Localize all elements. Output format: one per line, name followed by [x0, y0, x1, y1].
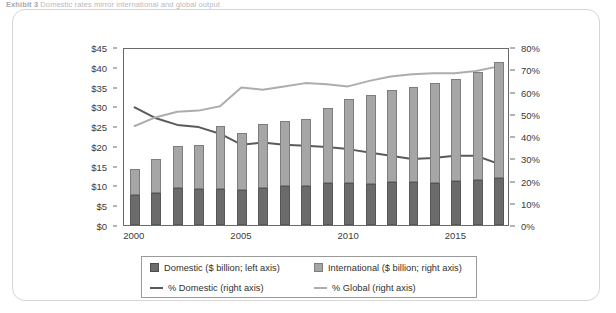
bar-column: [151, 159, 161, 225]
bar-column: [258, 124, 268, 225]
y-axis-right: 0%10%20%30%40%50%60%70%80%: [509, 48, 616, 226]
y-axis-right-tick-label: 40%: [521, 132, 540, 143]
y-axis-right-tick: [510, 114, 515, 115]
y-axis-right-tick: [510, 48, 515, 49]
bar-column: [387, 90, 397, 225]
legend-item-pct-domestic: % Domestic (right axis): [150, 278, 264, 297]
exhibit-caption-prefix: Exhibit 3: [6, 0, 38, 9]
bar-segment-international: [387, 90, 397, 183]
y-axis-left-tick: [113, 48, 117, 49]
legend-line-pct-domestic-icon: [150, 287, 163, 289]
legend-label-domestic: Domestic ($ billion; left axis): [164, 263, 280, 273]
legend-row-bars: Domestic ($ billion; left axis) Internat…: [142, 258, 476, 277]
y-axis-left-tick: [113, 67, 117, 68]
bar-segment-international: [194, 145, 204, 189]
legend-label-pct-domestic: % Domestic (right axis): [168, 283, 264, 293]
bar-column: [409, 87, 419, 225]
y-axis-right-tick-label: 30%: [521, 154, 540, 165]
bar-column: [237, 133, 247, 225]
bar-column: [366, 95, 376, 225]
bar-segment-international: [473, 72, 483, 180]
legend-swatch-domestic-icon: [150, 263, 159, 272]
bar-segment-domestic: [173, 188, 183, 225]
legend-swatch-international-icon: [314, 263, 323, 272]
chart-panel: $0$5$10$15$20$25$30$35$40$45 0%10%20%30%…: [12, 9, 600, 301]
exhibit-caption: Exhibit 3 Domestic rates mirror internat…: [6, 0, 346, 9]
y-axis-right-tick: [510, 70, 515, 71]
y-axis-right-tick: [510, 226, 515, 227]
y-axis-left-tick-label: $10: [91, 181, 107, 192]
bar-segment-international: [280, 121, 290, 187]
y-axis-left-tick: [113, 146, 117, 147]
bar-segment-international: [173, 146, 183, 188]
bar-column: [473, 72, 483, 225]
bar-segment-international: [301, 119, 311, 187]
y-axis-left-tick: [113, 226, 117, 227]
bar-segment-international: [366, 95, 376, 184]
x-axis: 2000200520102015: [123, 228, 509, 248]
bar-segment-international: [323, 108, 333, 184]
x-axis-tick-label: 2015: [445, 230, 466, 241]
bar-segment-domestic: [237, 190, 247, 225]
y-axis-left-tick-label: $30: [91, 102, 107, 113]
bar-segment-domestic: [194, 189, 204, 225]
bar-segment-domestic: [409, 182, 419, 225]
line-pct-domestic: [135, 107, 498, 163]
bar-segment-domestic: [366, 184, 376, 225]
bar-segment-international: [451, 79, 461, 181]
exhibit-caption-text: Domestic rates mirror international and …: [40, 0, 220, 9]
bar-segment-international: [237, 133, 247, 190]
legend-item-pct-global: % Global (right axis): [314, 278, 416, 297]
bar-column: [430, 83, 440, 225]
chart-screenshot: Exhibit 3 Domestic rates mirror internat…: [0, 0, 616, 313]
y-axis-left-tick: [113, 186, 117, 187]
y-axis-left-tick-label: $20: [91, 141, 107, 152]
bar-segment-domestic: [344, 183, 354, 225]
y-axis-left-tick-label: $35: [91, 82, 107, 93]
bar-column: [301, 119, 311, 225]
y-axis-left: $0$5$10$15$20$25$30$35$40$45: [13, 48, 117, 226]
y-axis-left-tick: [113, 127, 117, 128]
bar-segment-domestic: [151, 193, 161, 225]
legend-line-pct-global-icon: [314, 287, 327, 289]
bar-column: [173, 146, 183, 225]
bar-segment-domestic: [451, 181, 461, 225]
bar-segment-international: [430, 83, 440, 183]
y-axis-left-tick: [113, 107, 117, 108]
bar-column: [130, 169, 140, 225]
bar-segment-domestic: [494, 178, 504, 225]
y-axis-right-tick-label: 10%: [521, 198, 540, 209]
chart-legend: Domestic ($ billion; left axis) Internat…: [141, 256, 477, 298]
y-axis-left-tick-label: $5: [96, 201, 107, 212]
bar-segment-international: [409, 87, 419, 182]
legend-label-international: International ($ billion; right axis): [328, 263, 462, 273]
y-axis-left-tick-label: $25: [91, 122, 107, 133]
line-pct-global: [135, 67, 498, 126]
x-axis-tick-label: 2000: [123, 230, 144, 241]
bar-segment-international: [258, 124, 268, 188]
legend-item-domestic: Domestic ($ billion; left axis): [150, 258, 280, 277]
bar-segment-domestic: [387, 182, 397, 225]
bar-column: [323, 108, 333, 225]
y-axis-left-tick-label: $0: [96, 221, 107, 232]
y-axis-right-tick: [510, 92, 515, 93]
bar-segment-international: [216, 126, 226, 189]
bar-segment-domestic: [430, 183, 440, 225]
bar-segment-domestic: [130, 195, 140, 225]
x-axis-tick-label: 2005: [230, 230, 251, 241]
y-axis-right-tick: [510, 203, 515, 204]
bar-segment-international: [494, 62, 504, 178]
bar-segment-domestic: [216, 189, 226, 225]
bar-segment-international: [151, 159, 161, 193]
y-axis-right-tick-label: 70%: [521, 65, 540, 76]
bar-column: [194, 145, 204, 225]
y-axis-left-tick: [113, 87, 117, 88]
plot-inner: [124, 49, 508, 225]
legend-item-international: International ($ billion; right axis): [314, 258, 462, 277]
y-axis-right-tick: [510, 181, 515, 182]
y-axis-left-tick-label: $45: [91, 43, 107, 54]
bar-column: [451, 79, 461, 225]
bar-segment-domestic: [473, 180, 483, 225]
y-axis-left-tick: [113, 206, 117, 207]
bar-segment-domestic: [301, 186, 311, 225]
